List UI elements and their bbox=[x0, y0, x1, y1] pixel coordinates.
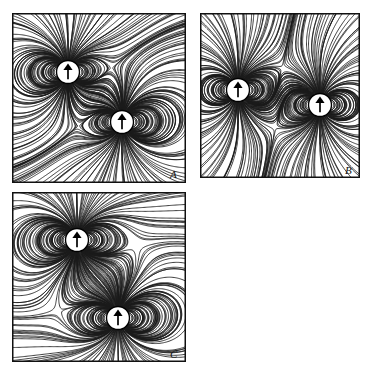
dipole-lower-right bbox=[111, 111, 134, 134]
field-line-plot bbox=[12, 13, 186, 183]
panel-b bbox=[200, 13, 360, 178]
dipole-upper bbox=[66, 229, 89, 252]
dipole-left bbox=[227, 79, 250, 102]
dipole-right bbox=[309, 94, 332, 117]
field-line-plot bbox=[200, 13, 360, 178]
figure-root: A B C bbox=[0, 0, 374, 373]
dipole-upper-left bbox=[57, 61, 80, 84]
dipole-lower bbox=[107, 307, 130, 330]
panel-c bbox=[12, 192, 186, 362]
panel-b-label: B bbox=[345, 164, 352, 176]
panel-a bbox=[12, 13, 186, 183]
field-line-plot bbox=[12, 192, 186, 362]
panel-c-label: C bbox=[170, 348, 178, 360]
panel-a-label: A bbox=[170, 168, 177, 180]
